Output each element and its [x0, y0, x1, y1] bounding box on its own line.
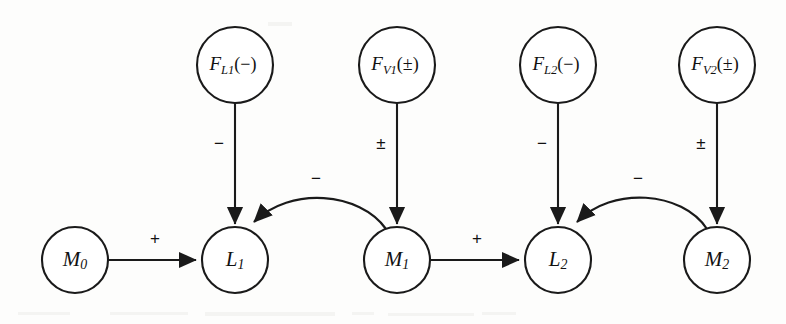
edge-fv2-to-m2: ± [696, 103, 717, 224]
edge-label-fv2-m2: ± [696, 134, 705, 153]
node-m0[interactable]: M0 [42, 227, 108, 293]
edge-m1-to-l2: + [430, 229, 519, 260]
influence-diagram-canvas: + + − ± − ± − [0, 0, 786, 324]
node-l2[interactable]: L2 [525, 227, 591, 293]
edge-label-fv1-m1: ± [376, 134, 385, 153]
edge-fl1-to-l1: − [214, 103, 235, 224]
edge-m2-to-l2-arc: − [577, 169, 707, 229]
node-fl1[interactable]: FL1(−) [197, 27, 273, 103]
edge-label-m0-l1: + [150, 229, 160, 248]
node-fv2[interactable]: FV2(±) [679, 27, 755, 103]
edge-m1-to-l1-arc: − [254, 169, 386, 229]
edge-label-m1-l1: − [311, 169, 321, 188]
influence-diagram-container: + + − ± − ± − [0, 0, 786, 324]
edge-arc-m2-l2 [577, 198, 707, 229]
edge-fl2-to-l2: − [537, 103, 558, 224]
node-fv1[interactable]: FV1(±) [359, 27, 435, 103]
edge-m0-to-l1: + [108, 229, 196, 260]
edge-label-m1-l2: + [472, 229, 482, 248]
edge-arc-m1-l1 [254, 198, 386, 229]
node-m1[interactable]: M1 [364, 227, 430, 293]
node-m2[interactable]: M2 [684, 227, 750, 293]
edge-label-m2-l2: − [633, 169, 643, 188]
edge-fv1-to-m1: ± [376, 103, 397, 224]
edge-label-fl2-l2: − [537, 134, 547, 153]
edge-label-fl1-l1: − [214, 134, 224, 153]
node-l1[interactable]: L1 [202, 227, 268, 293]
node-fl2[interactable]: FL2(−) [520, 27, 596, 103]
